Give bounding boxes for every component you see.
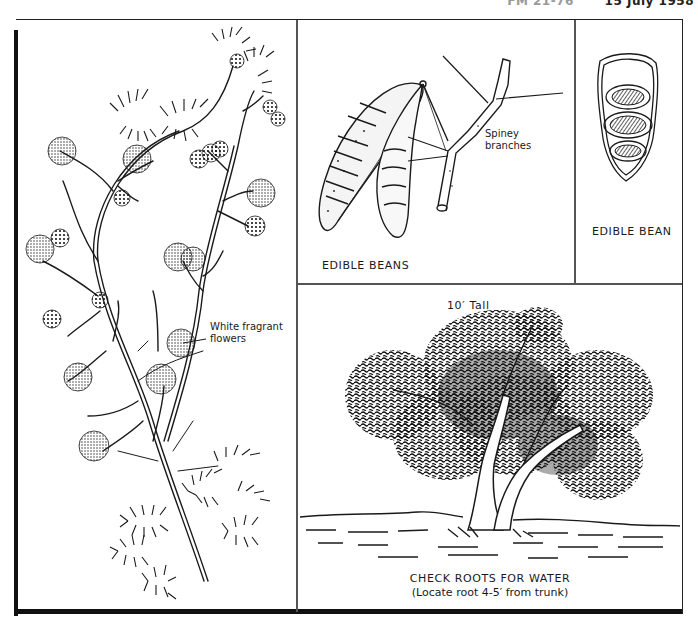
edible-bean-caption: EDIBLE BEAN <box>592 225 672 238</box>
spiney-branches-callout: Spiney branches <box>485 128 531 152</box>
acacia-tree-icon <box>298 285 682 611</box>
panel-flowering-branch: White fragrant flowers <box>18 21 296 611</box>
panel-tree: 10′ Tall <box>298 285 682 611</box>
tree-caption: CHECK ROOTS FOR WATER (Locate root 4-5′ … <box>298 572 682 599</box>
acacia-branch-icon <box>18 21 296 611</box>
spiney-callout-line1: Spiney <box>485 128 531 140</box>
flowers-callout-line1: White fragrant <box>210 321 283 333</box>
panel-edible-bean: EDIBLE BEAN <box>576 21 682 283</box>
header-date: 15 July 1958 <box>605 0 694 8</box>
bean-pods-and-thorny-branch-icon <box>298 21 574 283</box>
spiney-callout-line2: branches <box>485 140 531 152</box>
header-doc-id: FM 21-76 <box>507 0 574 8</box>
panel-edible-beans: Spiney branches EDIBLE BEANS <box>298 21 574 283</box>
tree-caption-line2: (Locate root 4-5′ from trunk) <box>298 587 682 599</box>
tree-caption-line1: CHECK ROOTS FOR WATER <box>298 572 682 585</box>
flowers-callout: White fragrant flowers <box>210 321 283 345</box>
edible-beans-caption: EDIBLE BEANS <box>322 259 409 272</box>
open-bean-pod-icon <box>576 21 682 283</box>
page-header-fragment: FM 21-76 15 July 1958 <box>481 0 694 8</box>
flowers-callout-line2: flowers <box>210 333 283 345</box>
